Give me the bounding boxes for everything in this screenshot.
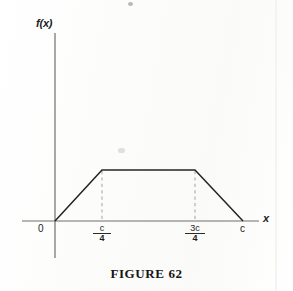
fraction-denominator: 4 [185,234,205,243]
figure-caption: FIGURE 62 [0,266,293,282]
x-axis-label: x [263,213,269,224]
tick-label-c: c [240,224,245,234]
tick-label-c-over-4: c 4 [93,224,111,244]
function-curve [55,170,243,221]
y-axis-label: f(x) [36,18,52,29]
plot-area [0,0,293,291]
tick-label-origin: 0 [38,224,44,234]
fraction-denominator: 4 [93,234,111,243]
figure-container: f(x) x 0 c 4 3c 4 c FIGURE 62 [0,0,293,291]
tick-label-three-c-over-4: 3c 4 [185,224,205,244]
